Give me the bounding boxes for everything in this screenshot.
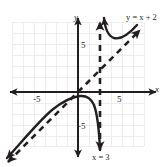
graph-figure: y x 5 -5 5 -5 y = x + 2 x = 3 [0, 0, 166, 167]
y-axis-tick-label-5: 5 [81, 41, 86, 50]
x-axis-tick-label-5: 5 [117, 95, 122, 104]
y-axis-label: y [74, 13, 78, 22]
coordinate-plane [0, 0, 166, 167]
x-axis-tick-label-minus5: -5 [33, 95, 41, 104]
y-axis-tick-label-minus5: -5 [78, 122, 86, 131]
slant-asymptote-equation-label: y = x + 2 [126, 13, 157, 22]
vertical-asymptote-equation-label: x = 3 [92, 153, 110, 162]
curve-left-branch [7, 96, 100, 158]
x-axis-label: x [155, 85, 159, 94]
